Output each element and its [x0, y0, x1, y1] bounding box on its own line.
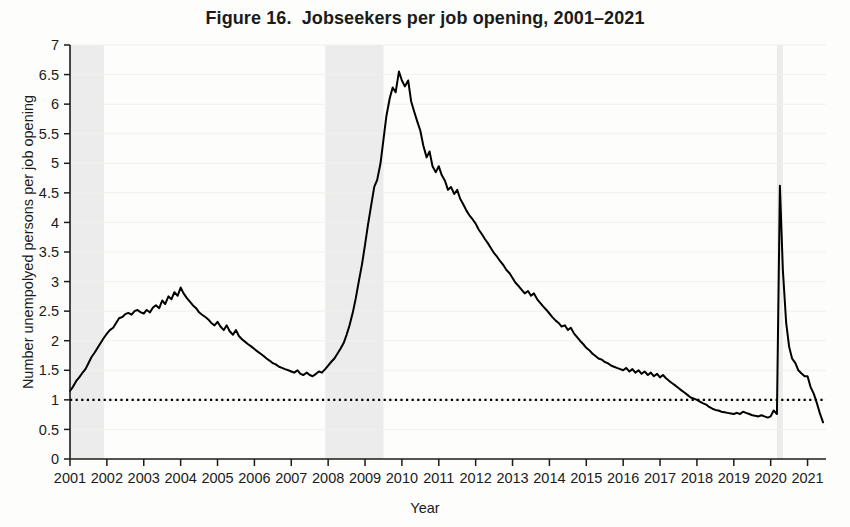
x-tick-label: 2002 [91, 470, 123, 486]
x-tick-label: 2008 [312, 470, 344, 486]
x-axis-tick-labels: 2001200220032004200520062007200820092010… [54, 470, 824, 486]
y-tick-label: 7 [51, 37, 59, 53]
x-tick-label: 2019 [718, 470, 750, 486]
y-tick-label: 0.5 [39, 422, 59, 438]
y-tick-label: 2.5 [39, 303, 59, 319]
x-tick-label: 2016 [607, 470, 639, 486]
x-tick-label: 2020 [755, 470, 787, 486]
y-tick-label: 4 [51, 215, 59, 231]
x-tick-label: 2007 [275, 470, 307, 486]
y-tick-label: 4.5 [39, 185, 59, 201]
x-tick-label: 2015 [570, 470, 602, 486]
x-tick-label: 2003 [128, 470, 160, 486]
y-tick-label: 1.5 [39, 362, 59, 378]
y-axis-label: Number unempolyed persons per job openin… [20, 72, 36, 412]
y-axis-tick-labels: 00.511.522.533.544.555.566.57 [39, 37, 59, 467]
x-tick-label: 2018 [681, 470, 713, 486]
figure-container: Figure 16. Jobseekers per job opening, 2… [0, 0, 850, 527]
x-tick-label: 2012 [460, 470, 492, 486]
x-tick-label: 2010 [386, 470, 418, 486]
data-line-group [70, 72, 823, 423]
x-tick-label: 2013 [496, 470, 528, 486]
axes-group [64, 45, 826, 466]
y-tick-label: 3.5 [39, 244, 59, 260]
y-tick-label: 6 [51, 96, 59, 112]
y-tick-label: 0 [51, 451, 59, 467]
y-tick-label: 5 [51, 155, 59, 171]
x-tick-label: 2001 [54, 470, 86, 486]
x-tick-label: 2005 [201, 470, 233, 486]
x-tick-label: 2004 [165, 470, 197, 486]
x-tick-label: 2021 [791, 470, 823, 486]
x-tick-label: 2014 [533, 470, 565, 486]
x-tick-label: 2011 [423, 470, 454, 486]
gridlines [70, 45, 826, 429]
y-tick-label: 3 [51, 274, 59, 290]
y-tick-label: 1 [51, 392, 59, 408]
y-tick-label: 2 [51, 333, 59, 349]
chart-plot-area: 00.511.522.533.544.555.566.57 2001200220… [0, 0, 850, 527]
y-tick-label: 5.5 [39, 126, 59, 142]
x-tick-label: 2017 [644, 470, 676, 486]
x-tick-label: 2006 [238, 470, 270, 486]
series-line-0 [70, 72, 823, 423]
x-tick-label: 2009 [349, 470, 381, 486]
x-axis-label: Year [0, 500, 850, 516]
y-tick-label: 6.5 [39, 67, 59, 83]
